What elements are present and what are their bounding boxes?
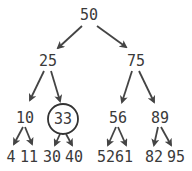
edge-10-4 bbox=[14, 127, 23, 144]
node-50: 50 bbox=[80, 8, 98, 23]
edge-33-30 bbox=[55, 134, 60, 145]
edge-89-82 bbox=[154, 127, 158, 145]
node-82: 82 bbox=[145, 150, 163, 165]
edge-33-40 bbox=[66, 134, 72, 145]
node-30: 30 bbox=[43, 150, 61, 165]
node-61: 61 bbox=[115, 150, 133, 165]
node-75: 75 bbox=[127, 54, 145, 69]
edge-75-89 bbox=[139, 71, 154, 102]
edge-25-10 bbox=[30, 71, 44, 100]
node-40: 40 bbox=[65, 150, 83, 165]
edge-25-33 bbox=[51, 71, 60, 101]
node-11: 11 bbox=[20, 150, 38, 165]
node-25: 25 bbox=[39, 54, 57, 69]
edge-89-95 bbox=[161, 127, 171, 145]
node-4: 4 bbox=[6, 150, 15, 165]
node-52: 52 bbox=[97, 150, 115, 165]
node-56: 56 bbox=[109, 111, 127, 126]
edge-56-61 bbox=[118, 127, 126, 145]
edge-50-25 bbox=[58, 26, 82, 48]
edges-layer bbox=[0, 0, 192, 171]
node-95: 95 bbox=[167, 150, 185, 165]
edge-50-75 bbox=[97, 26, 126, 47]
edge-56-52 bbox=[108, 127, 116, 145]
node-89: 89 bbox=[151, 111, 169, 126]
node-33: 33 bbox=[54, 112, 72, 127]
node-10: 10 bbox=[16, 111, 34, 126]
edge-75-56 bbox=[122, 71, 132, 102]
edge-10-11 bbox=[25, 127, 32, 144]
tree-diagram: 50 25 75 10 33 56 89 4 11 30 40 52 61 82… bbox=[0, 0, 192, 171]
